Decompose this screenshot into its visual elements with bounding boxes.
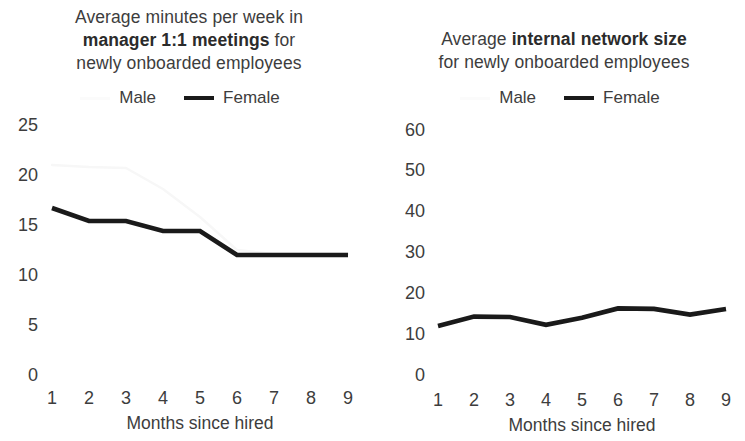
xtick-left-0: 1 [47, 388, 57, 408]
plot-area-right: 60 50 40 30 20 10 0 1 2 3 4 5 6 7 8 9 Mo… [380, 0, 745, 441]
xtick-right-5: 6 [613, 390, 623, 410]
series-line-female-left [52, 208, 348, 255]
ytick-left-3: 10 [18, 265, 38, 285]
xtick-left-1: 2 [84, 388, 94, 408]
xaxis-title-left: Months since hired [127, 413, 274, 433]
xtick-left-4: 5 [195, 388, 205, 408]
xtick-right-8: 9 [721, 390, 731, 410]
xtick-left-2: 3 [121, 388, 131, 408]
plot-area-left: 25 20 15 10 5 0 1 2 3 4 5 6 7 8 9 Months… [0, 0, 380, 441]
ytick-right-5: 10 [405, 324, 425, 344]
xaxis-title-right: Months since hired [509, 415, 656, 435]
ytick-right-0: 60 [405, 120, 425, 140]
ytick-left-1: 20 [18, 165, 38, 185]
ytick-right-1: 50 [405, 160, 425, 180]
xtick-left-6: 7 [269, 388, 279, 408]
ytick-left-2: 15 [18, 215, 38, 235]
plot-svg-right: 60 50 40 30 20 10 0 1 2 3 4 5 6 7 8 9 Mo… [380, 0, 745, 441]
ytick-left-4: 5 [28, 315, 38, 335]
xtick-right-3: 4 [541, 390, 551, 410]
series-line-female-right [438, 308, 726, 326]
ytick-left-5: 0 [28, 365, 38, 385]
series-line-male-left [52, 165, 348, 254]
xtick-left-7: 8 [306, 388, 316, 408]
ytick-left-0: 25 [18, 115, 38, 135]
xtick-right-4: 5 [577, 390, 587, 410]
ytick-right-6: 0 [415, 365, 425, 385]
xtick-right-6: 7 [649, 390, 659, 410]
ytick-right-4: 20 [405, 283, 425, 303]
xtick-right-0: 1 [433, 390, 443, 410]
ytick-right-3: 30 [405, 242, 425, 262]
xtick-right-7: 8 [685, 390, 695, 410]
xtick-left-3: 4 [158, 388, 168, 408]
xtick-right-2: 3 [505, 390, 515, 410]
xtick-left-8: 9 [343, 388, 353, 408]
xtick-right-1: 2 [469, 390, 479, 410]
dual-line-chart-figure: Average minutes per week in manager 1:1 … [0, 0, 745, 441]
chart-panel-internal-network: Average internal network size for newly … [380, 0, 745, 441]
chart-panel-manager-1on1: Average minutes per week in manager 1:1 … [0, 0, 380, 441]
plot-svg-left: 25 20 15 10 5 0 1 2 3 4 5 6 7 8 9 Months… [0, 0, 380, 441]
ytick-right-2: 40 [405, 201, 425, 221]
xtick-left-5: 6 [232, 388, 242, 408]
